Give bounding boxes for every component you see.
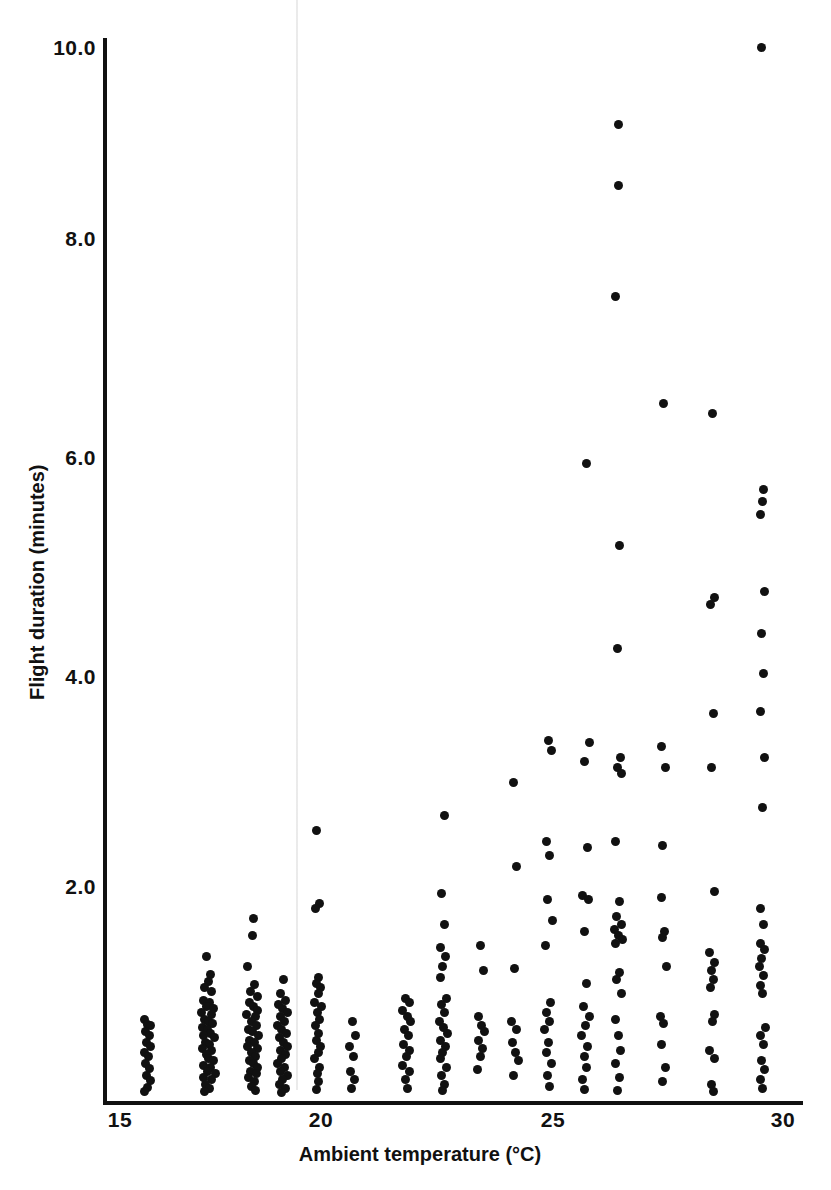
data-point bbox=[661, 1063, 670, 1072]
data-point bbox=[613, 644, 622, 653]
data-point bbox=[615, 541, 624, 550]
data-point bbox=[661, 763, 670, 772]
data-point bbox=[580, 1052, 589, 1061]
data-point bbox=[584, 895, 593, 904]
data-point bbox=[760, 753, 769, 762]
data-point bbox=[311, 904, 320, 913]
data-point bbox=[659, 1019, 668, 1028]
data-point bbox=[543, 895, 552, 904]
data-point bbox=[658, 1077, 667, 1086]
data-point bbox=[583, 843, 592, 852]
data-point bbox=[657, 1040, 666, 1049]
data-point bbox=[512, 1025, 521, 1034]
data-point bbox=[759, 485, 768, 494]
data-point bbox=[582, 459, 591, 468]
data-point bbox=[611, 1059, 620, 1068]
data-point bbox=[706, 983, 715, 992]
data-point bbox=[403, 1084, 412, 1093]
data-point bbox=[514, 1056, 523, 1065]
data-point bbox=[578, 1075, 587, 1084]
data-point bbox=[347, 1084, 356, 1093]
data-point bbox=[509, 778, 518, 787]
data-point bbox=[312, 826, 321, 835]
data-point bbox=[708, 409, 717, 418]
data-point bbox=[437, 1071, 446, 1080]
data-point bbox=[541, 941, 550, 950]
data-point bbox=[277, 1088, 286, 1097]
data-point bbox=[207, 987, 216, 996]
data-point bbox=[658, 933, 667, 942]
data-point bbox=[544, 736, 553, 745]
data-point bbox=[759, 1040, 768, 1049]
data-point bbox=[545, 1082, 554, 1091]
data-point bbox=[710, 887, 719, 896]
data-point bbox=[579, 1002, 588, 1011]
data-point bbox=[437, 889, 446, 898]
data-point bbox=[757, 43, 766, 52]
data-point bbox=[758, 989, 767, 998]
data-point bbox=[581, 1021, 590, 1030]
data-point bbox=[544, 1038, 553, 1047]
data-point bbox=[614, 1031, 623, 1040]
data-point bbox=[542, 837, 551, 846]
data-point bbox=[614, 120, 623, 129]
data-point bbox=[540, 1025, 549, 1034]
data-point bbox=[709, 709, 718, 718]
data-point bbox=[759, 920, 768, 929]
data-point bbox=[545, 1017, 554, 1026]
data-point bbox=[577, 1031, 586, 1040]
data-point bbox=[438, 962, 447, 971]
data-point bbox=[662, 962, 671, 971]
data-point bbox=[611, 292, 620, 301]
data-point bbox=[479, 966, 488, 975]
data-point bbox=[582, 1063, 591, 1072]
data-point-layer bbox=[0, 0, 831, 1190]
data-point bbox=[757, 629, 766, 638]
data-point bbox=[476, 1052, 485, 1061]
data-point bbox=[756, 1075, 765, 1084]
data-point bbox=[759, 971, 768, 980]
data-point bbox=[473, 1065, 482, 1074]
data-point bbox=[248, 931, 257, 940]
data-point bbox=[580, 1085, 589, 1094]
data-point bbox=[349, 1052, 358, 1061]
data-point bbox=[617, 769, 626, 778]
data-point bbox=[756, 510, 765, 519]
scatter-plot-figure: 10.0 8.0 6.0 4.0 2.0 15 20 25 30 Ambient… bbox=[0, 0, 831, 1190]
data-point bbox=[760, 587, 769, 596]
data-point bbox=[548, 916, 557, 925]
data-point bbox=[251, 1086, 260, 1095]
data-point bbox=[756, 1031, 765, 1040]
data-point bbox=[440, 920, 449, 929]
data-point bbox=[436, 1054, 445, 1063]
data-point bbox=[756, 707, 765, 716]
data-point bbox=[476, 941, 485, 950]
data-point bbox=[405, 998, 414, 1007]
data-point bbox=[611, 837, 620, 846]
data-point bbox=[436, 973, 445, 982]
data-point bbox=[401, 1075, 410, 1084]
data-point bbox=[441, 952, 450, 961]
data-point bbox=[279, 975, 288, 984]
data-point bbox=[202, 952, 211, 961]
data-point bbox=[616, 1046, 625, 1055]
data-point bbox=[583, 1042, 592, 1051]
data-point bbox=[658, 841, 667, 850]
data-point bbox=[611, 939, 620, 948]
data-point bbox=[351, 1031, 360, 1040]
data-point bbox=[657, 893, 666, 902]
data-point bbox=[547, 1059, 556, 1068]
data-point bbox=[140, 1087, 149, 1096]
data-point bbox=[253, 992, 262, 1001]
data-point bbox=[508, 1038, 517, 1047]
data-point bbox=[756, 904, 765, 913]
data-point bbox=[709, 1087, 718, 1096]
data-point bbox=[758, 497, 767, 506]
data-point bbox=[614, 181, 623, 190]
data-point bbox=[710, 1054, 719, 1063]
data-point bbox=[707, 966, 716, 975]
data-point bbox=[615, 897, 624, 906]
data-point bbox=[348, 1017, 357, 1026]
data-point bbox=[759, 669, 768, 678]
data-point bbox=[546, 998, 555, 1007]
